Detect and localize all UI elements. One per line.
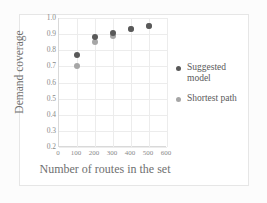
legend-label-suggested-model-line2: model xyxy=(187,73,264,84)
y-tick-label: 0.8 xyxy=(38,46,56,54)
plot-area xyxy=(58,18,166,147)
data-point xyxy=(92,39,98,45)
legend-item-suggested-model[interactable]: Suggested model xyxy=(176,62,264,84)
x-axis-tick-labels: 0100200300400500600 xyxy=(0,149,267,161)
data-point xyxy=(128,26,134,32)
gridline-horizontal xyxy=(59,147,167,148)
y-tick-label: 1.0 xyxy=(38,14,56,22)
data-point xyxy=(146,23,152,29)
legend-label-suggested-model-line1: Suggested xyxy=(187,62,264,73)
gridline-vertical xyxy=(167,18,168,147)
data-point xyxy=(110,30,116,36)
y-tick-label: 0.7 xyxy=(38,62,56,70)
y-tick-label: 0.6 xyxy=(38,79,56,87)
y-axis-title: Demand coverage xyxy=(13,12,25,132)
x-axis-title: Number of routes in the set xyxy=(30,162,180,177)
data-point xyxy=(74,63,80,69)
y-tick-label: 0.5 xyxy=(38,95,56,103)
data-point xyxy=(74,52,80,58)
gridline-vertical xyxy=(131,18,132,147)
chart-figure: 1.00.90.80.70.60.50.40.30.2 010020030040… xyxy=(0,0,267,203)
legend-marker-suggested-model xyxy=(176,66,181,71)
chart-legend: Suggested model Shortest path xyxy=(176,62,264,113)
y-tick-label: 0.4 xyxy=(38,111,56,119)
y-tick-label: 0.3 xyxy=(38,127,56,135)
gridline-vertical xyxy=(149,18,150,147)
legend-label-shortest-path: Shortest path xyxy=(187,93,264,104)
x-tick-label: 600 xyxy=(153,149,179,158)
legend-marker-shortest-path xyxy=(176,97,181,102)
gridline-vertical xyxy=(77,18,78,147)
y-tick-label: 0.9 xyxy=(38,30,56,38)
legend-item-shortest-path[interactable]: Shortest path xyxy=(176,93,264,104)
